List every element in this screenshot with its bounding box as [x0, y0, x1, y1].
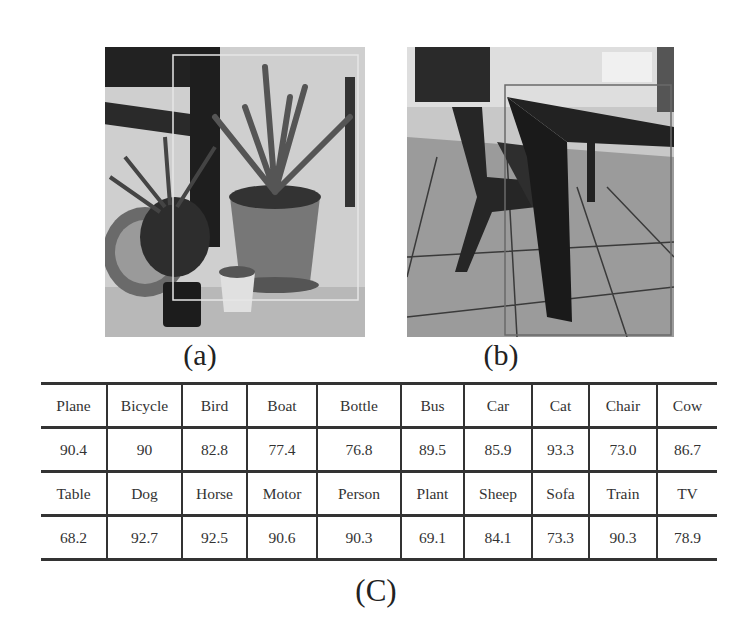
cell-value: 76.8: [317, 428, 401, 472]
cell-value: 84.1: [464, 516, 532, 560]
panel-b-caption: (b): [471, 340, 531, 370]
results-table: Plane Bicycle Bird Boat Bottle Bus Car C…: [41, 382, 717, 561]
cell-value: 78.9: [657, 516, 717, 560]
cell-value: 89.5: [401, 428, 464, 472]
cell-value: 82.8: [182, 428, 247, 472]
cell-header: Bus: [401, 384, 464, 428]
panel-c-caption: (C): [0, 573, 752, 609]
cell-value: 92.7: [107, 516, 182, 560]
panel-b-image: [407, 47, 674, 337]
cell-header: Bottle: [317, 384, 401, 428]
cell-header: Motor: [247, 472, 317, 516]
table-row-header-1: Plane Bicycle Bird Boat Bottle Bus Car C…: [41, 384, 717, 428]
cell-value: 73.3: [532, 516, 589, 560]
cell-header: Cat: [532, 384, 589, 428]
cell-header: Plant: [401, 472, 464, 516]
table-row-values-2: 68.2 92.7 92.5 90.6 90.3 69.1 84.1 73.3 …: [41, 516, 717, 560]
cell-value: 77.4: [247, 428, 317, 472]
cell-header: Bird: [182, 384, 247, 428]
cell-header: Sheep: [464, 472, 532, 516]
cell-value: 85.9: [464, 428, 532, 472]
cell-header: Sofa: [532, 472, 589, 516]
table-row-header-2: Table Dog Horse Motor Person Plant Sheep…: [41, 472, 717, 516]
cell-value: 93.3: [532, 428, 589, 472]
plants-photo-illustration: [105, 47, 365, 337]
cell-header: Chair: [589, 384, 657, 428]
cell-value: 90: [107, 428, 182, 472]
cell-header: Train: [589, 472, 657, 516]
cell-value: 90.3: [589, 516, 657, 560]
cell-value: 90.6: [247, 516, 317, 560]
chairs-table-photo-illustration: [407, 47, 674, 337]
cell-value: 90.4: [41, 428, 107, 472]
table-row-values-1: 90.4 90 82.8 77.4 76.8 89.5 85.9 93.3 73…: [41, 428, 717, 472]
cell-value: 86.7: [657, 428, 717, 472]
cell-header: Table: [41, 472, 107, 516]
panel-a-image: [105, 47, 365, 337]
cell-header: Boat: [247, 384, 317, 428]
cell-header: Dog: [107, 472, 182, 516]
cell-value: 68.2: [41, 516, 107, 560]
cell-header: Plane: [41, 384, 107, 428]
cell-value: 90.3: [317, 516, 401, 560]
cell-header: Person: [317, 472, 401, 516]
panel-a-caption: (a): [170, 340, 230, 370]
cell-header: Cow: [657, 384, 717, 428]
cell-header: Horse: [182, 472, 247, 516]
cell-header: TV: [657, 472, 717, 516]
cell-value: 92.5: [182, 516, 247, 560]
cell-value: 73.0: [589, 428, 657, 472]
cell-header: Bicycle: [107, 384, 182, 428]
cell-value: 69.1: [401, 516, 464, 560]
cell-header: Car: [464, 384, 532, 428]
